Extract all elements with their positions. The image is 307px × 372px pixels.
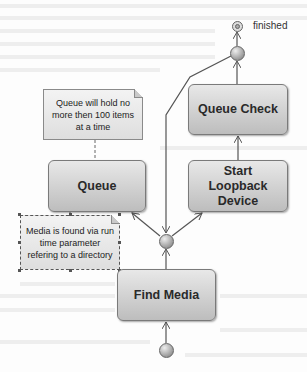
resize-handle-e[interactable] — [118, 241, 121, 244]
note-fold-corner — [111, 215, 120, 224]
action-queue-check-label: Queue Check — [198, 102, 278, 117]
resize-handle-ne[interactable] — [118, 213, 121, 216]
action-find-media[interactable]: Find Media — [117, 269, 216, 321]
center-junction-node-icon[interactable] — [159, 234, 174, 249]
activity-diagram-canvas: Queue will hold no more then 100 items a… — [0, 0, 307, 372]
action-start-loopback-device-label: Start Loopback Device — [197, 164, 279, 209]
top-junction-node-icon[interactable] — [230, 46, 245, 61]
action-queue-label: Queue — [78, 179, 117, 194]
final-node-icon[interactable] — [232, 21, 243, 32]
initial-node-icon[interactable] — [159, 343, 174, 358]
resize-handle-n[interactable] — [69, 213, 72, 216]
media-source-note[interactable]: Media is found via run time parameter re… — [20, 215, 120, 270]
resize-handle-s[interactable] — [69, 269, 72, 272]
media-source-note-text: Media is found via run time parameter re… — [25, 225, 115, 261]
resize-handle-sw[interactable] — [18, 269, 21, 272]
action-start-loopback-device[interactable]: Start Loopback Device — [188, 160, 288, 212]
note-fold-corner — [134, 89, 143, 98]
action-queue[interactable]: Queue — [48, 160, 146, 212]
resize-handle-w[interactable] — [18, 241, 21, 244]
queue-capacity-note-text: Queue will hold no more then 100 items a… — [48, 97, 138, 133]
resize-handle-nw[interactable] — [18, 213, 21, 216]
final-node-label: finished — [253, 20, 287, 31]
queue-capacity-note[interactable]: Queue will hold no more then 100 items a… — [43, 89, 143, 140]
action-queue-check[interactable]: Queue Check — [188, 84, 288, 135]
action-find-media-label: Find Media — [134, 288, 199, 303]
